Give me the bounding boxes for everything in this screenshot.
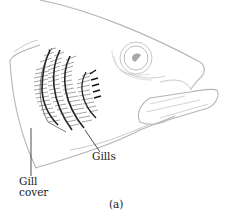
gills-label: Gills — [92, 151, 116, 162]
eye-pupil — [132, 54, 141, 62]
gill-arch-2 — [54, 50, 72, 130]
gill-cover-label-line2: cover — [19, 187, 48, 198]
cheek-line — [160, 80, 190, 88]
jaw-detail — [146, 96, 208, 118]
throat-inner — [70, 124, 150, 150]
gill-cover-outline — [10, 45, 40, 168]
gill-cover-label: Gill cover — [19, 176, 48, 198]
head-outline-top — [40, 0, 200, 62]
gills-leader-line — [85, 130, 100, 152]
gill-arches — [40, 48, 96, 132]
figure-caption: (a) — [109, 199, 123, 210]
snout-outline — [190, 62, 204, 90]
lower-jaw-outline — [138, 89, 218, 124]
